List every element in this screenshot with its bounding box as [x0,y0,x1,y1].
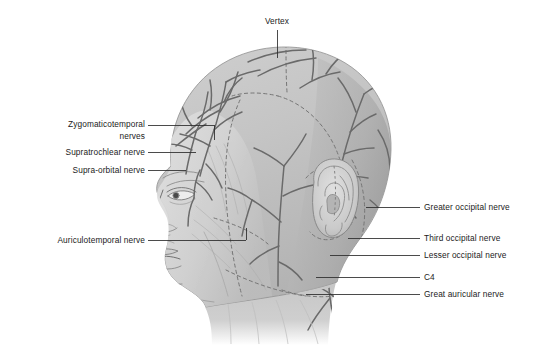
label-auriculotemporal-nerve: Auriculotemporal nerve [0,235,145,246]
label-vertex: Vertex [249,16,305,27]
label-zygomaticotemporal-line2: nerves [0,131,145,142]
label-greater-occipital-nerve: Greater occipital nerve [424,202,510,213]
label-third-occipital-nerve: Third occipital nerve [424,233,500,244]
anatomy-figure: Vertex Zygomaticotemporal nerves Supratr… [0,0,533,345]
label-great-auricular-nerve: Great auricular nerve [424,289,504,300]
label-lesser-occipital-nerve: Lesser occipital nerve [424,250,506,261]
label-supraorbital-nerve: Supra-orbital nerve [0,165,145,176]
label-c4: C4 [424,272,435,283]
neck-branch-lower [338,312,350,342]
label-supratrochlear-nerve: Supratrochlear nerve [0,147,145,158]
ear-concha [327,194,340,213]
label-zygomaticotemporal-line1: Zygomaticotemporal [0,119,145,130]
